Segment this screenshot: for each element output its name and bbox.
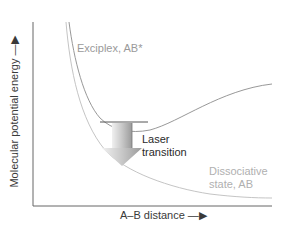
laser-label-line2: transition (142, 146, 187, 158)
laser-arrow (102, 123, 142, 166)
laser-label-line1: Laser (142, 133, 170, 145)
dissociative-label-line2: state, AB (209, 178, 253, 190)
exciplex-curve (69, 22, 272, 132)
potential-energy-diagram: Exciplex, AB* Laser transition Dissociat… (0, 0, 294, 231)
dissociative-label-line1: Dissociative (209, 165, 268, 177)
y-axis-label: Molecular potential energy —▶ (8, 36, 21, 187)
diagram-canvas (0, 0, 294, 231)
x-axis-label: A–B distance —▶ (120, 209, 207, 222)
exciplex-label: Exciplex, AB* (77, 42, 142, 54)
